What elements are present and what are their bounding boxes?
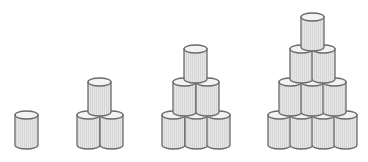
- can-icon: [185, 111, 208, 149]
- can-icon: [173, 78, 196, 116]
- can-icon: [77, 111, 100, 149]
- can-icon: [15, 111, 38, 149]
- can-icon: [162, 111, 185, 149]
- group-4: [268, 13, 357, 149]
- can-icon: [301, 78, 324, 116]
- group-3: [162, 45, 230, 149]
- can-icon: [207, 111, 230, 149]
- can-icon: [196, 78, 219, 116]
- group-2: [77, 78, 123, 149]
- can-icon: [290, 111, 313, 149]
- can-pyramids-figure: [0, 0, 368, 162]
- can-icon: [268, 111, 291, 149]
- can-icon: [323, 78, 346, 116]
- can-icon: [279, 78, 302, 116]
- can-icon: [184, 45, 207, 83]
- can-icon: [301, 13, 324, 51]
- can-icon: [88, 78, 111, 116]
- can-icon: [312, 111, 335, 149]
- group-1: [15, 111, 38, 149]
- can-icon: [100, 111, 123, 149]
- can-icon: [334, 111, 357, 149]
